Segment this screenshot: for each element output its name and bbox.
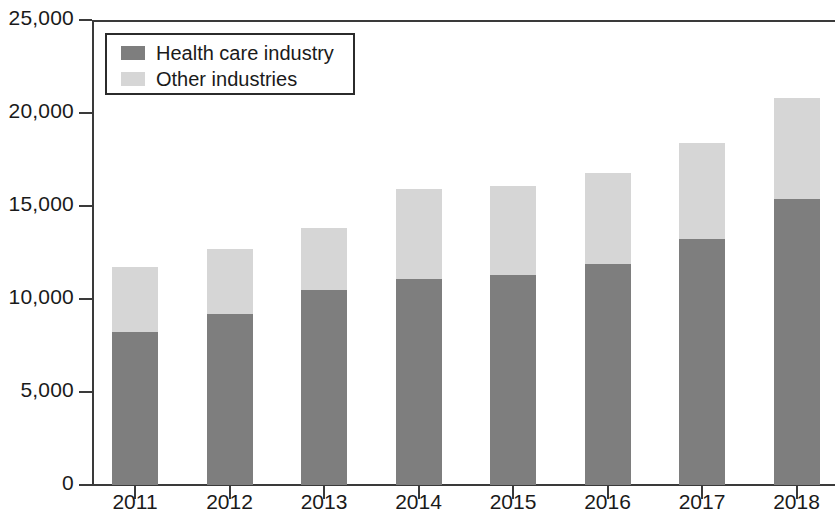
bar-2011[interactable] (112, 267, 158, 485)
x-axis-label-2013: 2013 (282, 490, 366, 514)
y-axis-tick-mark (79, 112, 92, 114)
legend-label-health-care: Health care industry (156, 43, 334, 63)
x-axis-label-2018: 2018 (755, 490, 835, 514)
x-axis-label-2017: 2017 (660, 490, 744, 514)
y-axis-tick-label: 10,000 (9, 285, 74, 309)
bar-segment-health-care-industry[interactable] (585, 264, 631, 485)
x-axis-label-2012: 2012 (188, 490, 272, 514)
legend-swatch-other-icon (121, 72, 145, 86)
bar-2013[interactable] (301, 228, 347, 485)
y-axis-tick-mark (79, 205, 92, 207)
y-axis-tick-label: 5,000 (20, 378, 74, 402)
bar-2015[interactable] (490, 186, 536, 485)
bar-segment-other-industries[interactable] (112, 267, 158, 332)
x-axis-label-2011: 2011 (93, 490, 177, 514)
y-axis-tick-mark (79, 19, 92, 21)
bar-segment-other-industries[interactable] (585, 173, 631, 264)
x-axis-label-2014: 2014 (377, 490, 461, 514)
bar-segment-health-care-industry[interactable] (490, 275, 536, 485)
y-axis-tick-mark (79, 391, 92, 393)
x-axis-label-2015: 2015 (471, 490, 555, 514)
bar-segment-other-industries[interactable] (396, 189, 442, 278)
bar-2012[interactable] (207, 249, 253, 485)
y-axis-tick-label: 25,000 (9, 6, 74, 30)
legend-item-other: Other industries (121, 66, 353, 92)
bar-segment-health-care-industry[interactable] (396, 279, 442, 485)
y-axis-tick-label: 15,000 (9, 192, 74, 216)
legend: Health care industry Other industries (105, 33, 355, 95)
legend-label-other: Other industries (156, 69, 297, 89)
legend-swatch-health-care-icon (121, 46, 145, 60)
bar-segment-other-industries[interactable] (679, 143, 725, 240)
legend-item-health-care: Health care industry (121, 40, 353, 66)
y-axis-tick-mark (79, 298, 92, 300)
bar-segment-other-industries[interactable] (774, 98, 820, 198)
bar-segment-other-industries[interactable] (301, 228, 347, 289)
bar-2014[interactable] (396, 189, 442, 485)
bar-segment-health-care-industry[interactable] (679, 239, 725, 485)
bar-2016[interactable] (585, 173, 631, 485)
y-axis-tick-label: 20,000 (9, 99, 74, 123)
bar-2017[interactable] (679, 143, 725, 485)
bar-segment-other-industries[interactable] (490, 186, 536, 275)
y-axis-tick-mark (79, 484, 92, 486)
bar-segment-health-care-industry[interactable] (207, 314, 253, 485)
bar-segment-health-care-industry[interactable] (301, 290, 347, 485)
bar-segment-other-industries[interactable] (207, 249, 253, 314)
stacked-bar-chart: 05,00010,00015,00020,00025,000 201120122… (0, 0, 835, 523)
bar-segment-health-care-industry[interactable] (112, 332, 158, 485)
x-axis-label-2016: 2016 (566, 490, 650, 514)
bar-2018[interactable] (774, 98, 820, 485)
y-axis-tick-label: 0 (62, 471, 74, 495)
bar-segment-health-care-industry[interactable] (774, 199, 820, 485)
